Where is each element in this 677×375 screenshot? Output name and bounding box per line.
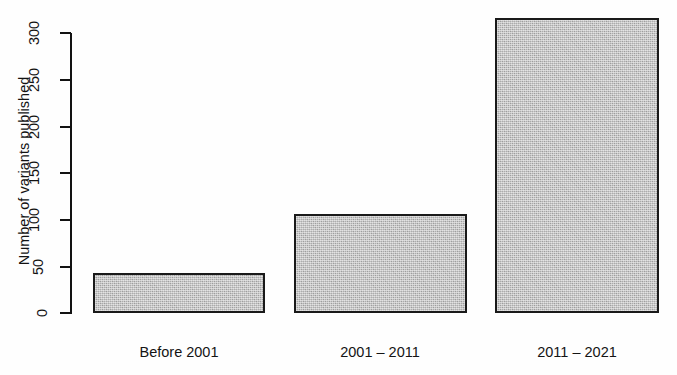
- bar-before-2001: [93, 273, 265, 313]
- y-axis-tick-200: [60, 126, 71, 128]
- y-axis-tick-300: [60, 32, 71, 34]
- y-axis-tick-250: [60, 79, 71, 81]
- y-axis-title: Number of variants published: [16, 36, 32, 306]
- plot-area: 300 250 200 150 100 50 0 Number of varia…: [0, 0, 677, 375]
- y-axis-tick-100: [60, 219, 71, 221]
- y-axis-tick-label-0: 0: [0, 305, 46, 321]
- y-axis-tick-50: [60, 266, 71, 268]
- x-axis-label-2001-2011: 2001 – 2011: [300, 344, 460, 360]
- y-axis-tick-0: [60, 312, 71, 314]
- bar-2011-2021: [495, 18, 659, 313]
- y-axis-tick-150: [60, 172, 71, 174]
- bar-2001-2011: [294, 214, 467, 313]
- x-axis-label-2011-2021: 2011 – 2021: [497, 344, 657, 360]
- bar-chart-figure: 300 250 200 150 100 50 0 Number of varia…: [0, 0, 677, 375]
- x-axis-label-before-2001: Before 2001: [99, 344, 259, 360]
